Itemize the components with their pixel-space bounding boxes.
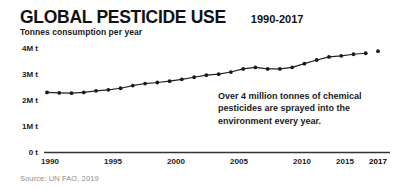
data-line — [47, 53, 366, 93]
data-point — [82, 91, 86, 95]
title-year-range: 1990-2017 — [251, 13, 304, 25]
data-point-markers — [45, 49, 380, 95]
data-point — [278, 67, 282, 71]
chart-annotation: Over 4 million tonnes of chemical pestic… — [218, 90, 394, 127]
y-axis-label-1m: 1M t — [4, 122, 38, 131]
data-point — [315, 58, 319, 62]
data-point — [168, 79, 172, 83]
data-point — [364, 51, 368, 55]
y-axis-label-3m: 3M t — [4, 70, 38, 79]
data-point — [376, 49, 380, 53]
data-point — [254, 65, 258, 69]
data-point — [70, 91, 74, 95]
x-axis-label-1995: 1995 — [93, 157, 133, 166]
chart-subtitle: Tonnes consumption per year — [20, 27, 142, 37]
data-point — [339, 54, 343, 58]
y-axis-label-4m: 4M t — [4, 44, 38, 53]
data-point — [143, 82, 147, 86]
data-point — [57, 91, 61, 95]
y-axis-label-0: 0 t — [4, 148, 38, 157]
data-point — [241, 67, 245, 71]
data-point — [106, 88, 110, 92]
x-axis-label-1990: 1990 — [30, 157, 70, 166]
data-point — [180, 77, 184, 81]
x-axis-label-2005: 2005 — [219, 157, 259, 166]
data-point — [45, 91, 49, 95]
y-axis-label-2m: 2M t — [4, 96, 38, 105]
data-point — [327, 55, 331, 59]
data-point — [155, 81, 159, 85]
x-axis-label-2000: 2000 — [156, 157, 196, 166]
x-axis-label-2010: 2010 — [282, 157, 322, 166]
data-point — [119, 86, 123, 90]
data-point — [352, 52, 356, 56]
page-title: GLOBAL PESTICIDE USE — [20, 6, 226, 28]
chart-figure: GLOBAL PESTICIDE USE 1990-2017 Tonnes co… — [0, 0, 404, 190]
data-point — [94, 89, 98, 93]
data-point — [303, 62, 307, 66]
data-point — [217, 72, 221, 76]
data-point — [290, 65, 294, 69]
data-point — [229, 70, 233, 74]
data-point — [266, 67, 270, 71]
data-point — [204, 73, 208, 77]
source-credit: Source: UN FAO, 2019 — [20, 174, 99, 183]
x-axis-label-2017: 2017 — [358, 157, 398, 166]
data-point — [192, 75, 196, 79]
data-point — [131, 84, 135, 88]
chart-title-row: GLOBAL PESTICIDE USE 1990-2017 — [20, 6, 303, 28]
